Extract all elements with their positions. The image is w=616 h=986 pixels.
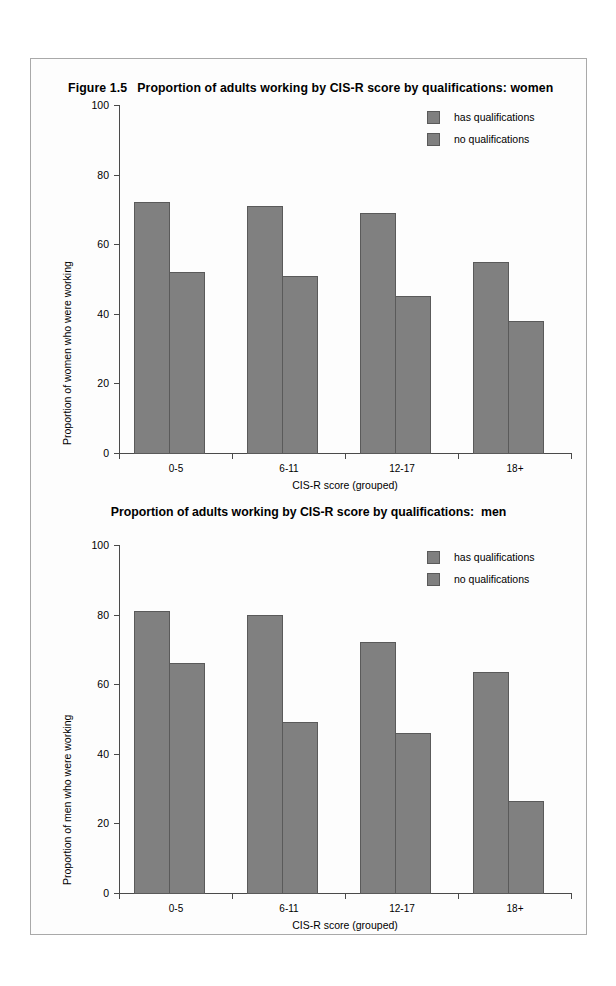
bar-women-6-11-has-qualifications — [247, 206, 283, 454]
x-tick-label-women-0-5: 0-5 — [169, 463, 183, 474]
chart-men: 0204060801000-56-1112-1718+CIS-R score (… — [31, 529, 587, 929]
legend-label-men-1: no qualifications — [454, 573, 529, 585]
bar-women-0-5-has-qualifications — [134, 202, 170, 454]
chart-legend-men: has qualificationsno qualifications — [427, 546, 535, 590]
bar-men-6-11-no-qualifications — [282, 722, 318, 894]
y-tick-men-80 — [114, 615, 119, 616]
bar-women-18+-has-qualifications — [473, 262, 509, 454]
legend-swatch-icon-men-0 — [427, 551, 440, 564]
x-axis-title-men: CIS-R score (grouped) — [292, 919, 398, 931]
y-tick-men-60 — [114, 684, 119, 685]
x-tick-label-women-6-11: 6-11 — [279, 463, 298, 474]
x-axis-title-women: CIS-R score (grouped) — [292, 479, 398, 491]
page-root: Figure 1.5Proportion of adults working b… — [0, 0, 616, 986]
y-tick-label-men-80: 80 — [71, 609, 109, 621]
chart-women: 0204060801000-56-1112-1718+CIS-R score (… — [31, 89, 587, 489]
y-tick-men-20 — [114, 823, 119, 824]
y-axis-title-men: Proportion of men who were working — [61, 715, 73, 885]
y-tick-label-men-0: 0 — [71, 887, 109, 899]
bar-men-0-5-no-qualifications — [169, 663, 205, 894]
y-axis-title-women: Proportion of women who were working — [61, 261, 73, 445]
bar-women-12-17-has-qualifications — [360, 213, 396, 454]
legend-row-men-has-qualifications: has qualifications — [427, 546, 535, 568]
y-tick-label-men-20: 20 — [71, 817, 109, 829]
y-tick-label-women-20: 20 — [71, 377, 109, 389]
y-tick-women-80 — [114, 175, 119, 176]
x-tick-women-3 — [458, 454, 459, 459]
x-tick-women-2 — [345, 454, 346, 459]
y-tick-label-women-0: 0 — [71, 447, 109, 459]
bar-men-12-17-no-qualifications — [395, 733, 431, 894]
x-tick-men-4 — [571, 894, 572, 899]
y-tick-women-60 — [114, 244, 119, 245]
bar-men-12-17-has-qualifications — [360, 642, 396, 894]
bar-women-18+-no-qualifications — [508, 321, 544, 454]
y-tick-women-20 — [114, 383, 119, 384]
y-tick-label-men-100: 100 — [71, 539, 109, 551]
bar-women-6-11-no-qualifications — [282, 276, 318, 454]
legend-row-men-no-qualifications: no qualifications — [427, 568, 535, 590]
x-tick-label-men-18+: 18+ — [507, 903, 524, 914]
x-tick-men-1 — [232, 894, 233, 899]
legend-row-women-no-qualifications: no qualifications — [427, 128, 535, 150]
bar-men-6-11-has-qualifications — [247, 615, 283, 894]
x-tick-label-women-12-17: 12-17 — [389, 463, 415, 474]
bar-men-18+-has-qualifications — [473, 672, 509, 894]
y-axis-line-men — [119, 545, 120, 894]
x-tick-women-1 — [232, 454, 233, 459]
legend-row-women-has-qualifications: has qualifications — [427, 106, 535, 128]
legend-swatch-icon-men-1 — [427, 573, 440, 586]
y-tick-label-women-100: 100 — [71, 99, 109, 111]
y-tick-label-men-60: 60 — [71, 678, 109, 690]
legend-swatch-icon-women-0 — [427, 111, 440, 124]
bar-women-12-17-no-qualifications — [395, 296, 431, 454]
legend-label-men-0: has qualifications — [454, 551, 535, 563]
y-axis-line-women — [119, 105, 120, 454]
x-tick-women-0 — [119, 454, 120, 459]
bar-men-0-5-has-qualifications — [134, 611, 170, 894]
figure-frame: Figure 1.5Proportion of adults working b… — [30, 58, 587, 935]
legend-label-women-0: has qualifications — [454, 111, 535, 123]
y-tick-women-100 — [114, 105, 119, 106]
x-tick-label-men-0-5: 0-5 — [169, 903, 183, 914]
legend-swatch-icon-women-1 — [427, 133, 440, 146]
legend-label-women-1: no qualifications — [454, 133, 529, 145]
y-tick-label-women-40: 40 — [71, 308, 109, 320]
y-tick-men-100 — [114, 545, 119, 546]
x-tick-label-women-18+: 18+ — [507, 463, 524, 474]
x-tick-label-men-6-11: 6-11 — [279, 903, 298, 914]
x-tick-label-men-12-17: 12-17 — [389, 903, 415, 914]
y-tick-label-women-60: 60 — [71, 238, 109, 250]
bar-women-0-5-no-qualifications — [169, 272, 205, 454]
y-tick-label-men-40: 40 — [71, 748, 109, 760]
x-tick-men-0 — [119, 894, 120, 899]
x-tick-men-3 — [458, 894, 459, 899]
y-tick-women-40 — [114, 314, 119, 315]
x-tick-men-2 — [345, 894, 346, 899]
y-tick-label-women-80: 80 — [71, 169, 109, 181]
y-tick-men-40 — [114, 754, 119, 755]
chart-legend-women: has qualificationsno qualifications — [427, 106, 535, 150]
figure-title-men: Proportion of adults working by CIS-R sc… — [31, 505, 586, 519]
bar-men-18+-no-qualifications — [508, 801, 544, 894]
x-tick-women-4 — [571, 454, 572, 459]
